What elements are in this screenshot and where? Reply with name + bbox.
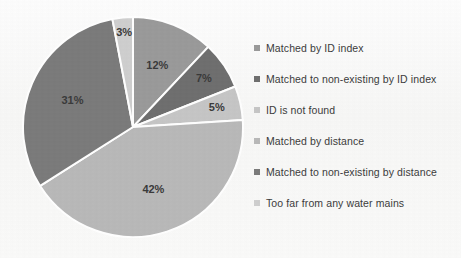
legend-item-label: ID is not found — [266, 104, 335, 116]
legend-item[interactable]: Too far from any water mains — [254, 187, 454, 218]
pie-slice-value-label: 7% — [196, 72, 212, 84]
legend-item-label: Too far from any water mains — [266, 197, 404, 209]
pie-chart-svg: 12%7%5%42%31%3% — [22, 16, 244, 238]
pie-slices — [23, 17, 243, 237]
pie-slice-value-label: 31% — [61, 94, 83, 106]
legend-square-marker-icon — [254, 45, 260, 51]
pie-slice-value-label: 3% — [116, 26, 132, 38]
pie-slice-value-label: 5% — [209, 101, 225, 113]
legend-square-marker-icon — [254, 169, 260, 175]
chart-legend: Matched by ID indexMatched to non-existi… — [254, 32, 454, 218]
legend-item-label: Matched to non-existing by ID index — [266, 73, 436, 85]
chart-page: 12%7%5%42%31%3% Matched by ID indexMatch… — [0, 0, 461, 258]
legend-item[interactable]: Matched by distance — [254, 125, 454, 156]
legend-item[interactable]: Matched to non-existing by ID index — [254, 63, 454, 94]
legend-square-marker-icon — [254, 200, 260, 206]
legend-item-label: Matched to non-existing by distance — [266, 166, 437, 178]
legend-item[interactable]: ID is not found — [254, 94, 454, 125]
legend-item[interactable]: Matched to non-existing by distance — [254, 156, 454, 187]
pie-chart: 12%7%5%42%31%3% — [22, 16, 244, 238]
legend-item[interactable]: Matched by ID index — [254, 32, 454, 63]
legend-item-label: Matched by distance — [266, 135, 364, 147]
legend-square-marker-icon — [254, 107, 260, 113]
legend-square-marker-icon — [254, 76, 260, 82]
pie-slice-value-label: 12% — [146, 59, 168, 71]
pie-slice-value-label: 42% — [142, 183, 164, 195]
legend-square-marker-icon — [254, 138, 260, 144]
legend-item-label: Matched by ID index — [266, 42, 364, 54]
